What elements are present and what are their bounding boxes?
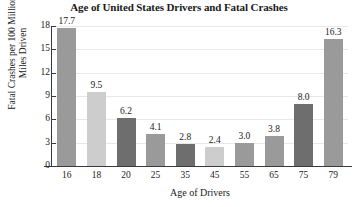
bar-value-label: 4.1 [138,122,173,132]
bar-chart-figure: Age of United States Drivers and Fatal C… [0,0,358,207]
y-axis-tick-mark [52,119,56,120]
y-axis-tick-mark [52,166,56,167]
y-axis-tick-label: 6 [10,114,50,124]
y-axis-tick-label: 12 [10,68,50,78]
bar-value-label: 8.0 [286,92,321,102]
gridline [52,49,348,50]
bar-value-label: 9.5 [79,80,114,90]
y-axis-tick-label: 0 [10,161,50,171]
y-axis-tick-label: 15 [10,44,50,54]
x-axis-label: Age of Drivers [52,187,348,199]
bar [324,39,343,166]
gridline [52,73,348,74]
x-axis-tick-label: 79 [316,170,351,181]
bar-value-label: 6.2 [109,106,144,116]
gridline [52,26,348,27]
bar-value-label: 3.8 [257,124,292,134]
y-axis-tick-mark [52,143,56,144]
bar-value-label: 16.3 [316,27,351,37]
y-axis-tick-label: 3 [10,138,50,148]
x-axis-spine [44,166,352,167]
bar [265,136,284,166]
bar [235,143,254,166]
bar [57,28,76,166]
y-axis-tick-label: 18 [10,21,50,31]
bar [87,92,106,166]
y-axis-tick-mark [52,49,56,50]
bar [176,144,195,166]
y-axis-tick-label: 9 [10,91,50,101]
bar [146,134,165,166]
chart-title: Age of United States Drivers and Fatal C… [0,1,358,14]
bar [294,104,313,166]
bar [205,147,224,166]
bar [117,118,136,166]
y-axis-tick-mark [52,96,56,97]
bar-value-label: 17.7 [49,16,84,26]
y-axis-tick-mark [52,73,56,74]
